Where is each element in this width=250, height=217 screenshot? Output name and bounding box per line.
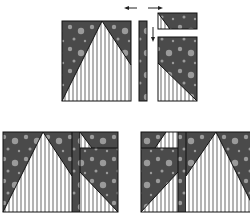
quilt-assembly-diagram: [0, 0, 250, 217]
large-triangle-unit: [62, 21, 131, 101]
assembled-block-left: [3, 132, 118, 212]
right-arrow: [148, 6, 163, 10]
tall-corner-unit: [158, 37, 197, 101]
narrow-strip: [139, 21, 147, 101]
assembled-block-right-mirrored: [141, 132, 250, 212]
small-corner-unit: [158, 13, 197, 29]
down-arrow: [151, 27, 155, 42]
left-arrow: [124, 6, 137, 10]
